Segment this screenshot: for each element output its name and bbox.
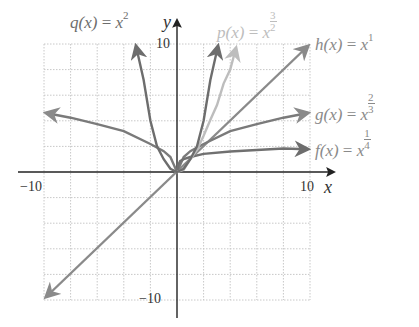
label-q: q(x) = x2 xyxy=(70,14,129,31)
y-min-tick-label: −10 xyxy=(139,292,161,306)
label-f-base: x xyxy=(357,141,365,160)
x-max-tick-label: 10 xyxy=(300,180,314,194)
label-q-eq: = xyxy=(102,13,112,32)
label-f-name: f(x) xyxy=(315,141,339,160)
x-min-tick-label: −10 xyxy=(20,180,42,194)
y-max-tick-label: 10 xyxy=(156,37,170,51)
label-h-name: h(x) xyxy=(315,35,342,54)
label-g-name: g(x) xyxy=(315,105,342,124)
label-p-name: p(x) xyxy=(217,23,244,42)
label-h-base: x xyxy=(360,35,368,54)
label-g-exp: 23 xyxy=(368,106,376,123)
label-g: g(x) = x23 xyxy=(315,106,376,123)
label-f-exp: 14 xyxy=(364,142,372,159)
label-h: h(x) = x1 xyxy=(315,36,374,53)
label-p-base: x xyxy=(262,23,270,42)
label-p: p(x) = x32 xyxy=(217,24,278,41)
label-p-exp: 32 xyxy=(270,24,278,41)
y-axis-label: y xyxy=(163,13,171,31)
label-p-eq: = xyxy=(249,23,259,42)
label-f: f(x) = x14 xyxy=(315,142,372,159)
label-g-base: x xyxy=(360,105,368,124)
label-h-eq: = xyxy=(347,35,357,54)
label-g-eq: = xyxy=(347,105,357,124)
label-q-base: x xyxy=(115,13,123,32)
label-f-eq: = xyxy=(343,141,353,160)
x-axis-label: x xyxy=(324,178,332,196)
label-q-exp: 2 xyxy=(123,9,129,21)
label-h-exp: 1 xyxy=(368,31,374,43)
label-q-name: q(x) xyxy=(70,13,97,32)
